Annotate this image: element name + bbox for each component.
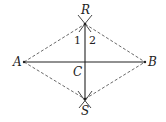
label-A: A bbox=[12, 55, 22, 69]
construction-diagram: R S A B C 1 2 bbox=[0, 0, 166, 122]
diagonals bbox=[24, 24, 145, 99]
label-R: R bbox=[80, 3, 90, 17]
point-A-dot bbox=[23, 61, 25, 63]
point-R-dot bbox=[84, 23, 87, 26]
label-B: B bbox=[147, 55, 157, 69]
diagram-canvas: R S A B C 1 2 bbox=[0, 0, 166, 122]
label-C: C bbox=[73, 65, 82, 79]
label-S: S bbox=[81, 104, 89, 118]
segment-SB bbox=[85, 62, 145, 99]
label-angle-2: 2 bbox=[89, 34, 96, 47]
point-S-dot bbox=[84, 98, 87, 101]
label-angle-1: 1 bbox=[74, 34, 81, 47]
point-B-dot bbox=[144, 61, 146, 63]
